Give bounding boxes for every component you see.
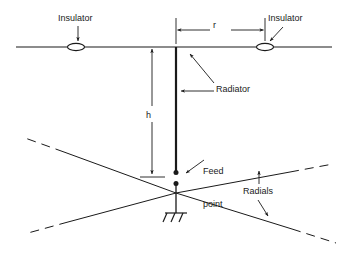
insulator-right-icon bbox=[257, 43, 274, 50]
radial-upper-right-dashed bbox=[290, 164, 333, 172]
insulator-right-label: Insulator bbox=[268, 13, 303, 24]
ground-symbol-icon bbox=[163, 213, 187, 222]
insulator-right-leader bbox=[270, 27, 283, 41]
antenna-diagram: Insulator Insulator r Radiator h Feed po… bbox=[0, 0, 347, 256]
feed-point-label: Feed point bbox=[203, 144, 224, 232]
height-h-label: h bbox=[146, 110, 151, 121]
radial-lower-left-solid bbox=[68, 193, 176, 222]
radiator-leader-upper bbox=[190, 54, 214, 83]
radial-lower-right-solid bbox=[176, 193, 292, 229]
radial-upper-left-solid bbox=[64, 152, 176, 193]
radial-lower-left-dashed bbox=[28, 222, 68, 233]
feed-point-label-line2: point bbox=[203, 199, 224, 210]
span-r-label: r bbox=[213, 20, 216, 31]
insulator-left-label: Insulator bbox=[58, 13, 93, 24]
radial-lower-right-dashed bbox=[292, 229, 336, 243]
feed-point-leader bbox=[186, 160, 204, 173]
insulator-left-icon bbox=[68, 43, 85, 50]
radials-label: Radials bbox=[243, 186, 273, 197]
radiator-label: Radiator bbox=[216, 84, 250, 95]
diagram-canvas bbox=[0, 0, 347, 256]
radials-leader-lower bbox=[258, 200, 268, 216]
feed-point-label-line1: Feed bbox=[203, 166, 224, 177]
radial-upper-left-dashed bbox=[25, 138, 64, 152]
feed-dot-upper bbox=[174, 170, 179, 175]
